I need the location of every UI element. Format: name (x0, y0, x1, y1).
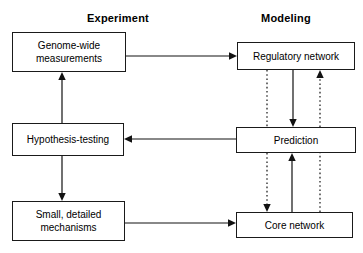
edge-core-to-prediction (288, 153, 295, 212)
node-label-regulatory-network: Regulatory network (253, 50, 339, 63)
node-label-core-network: Core network (265, 219, 324, 232)
edge-hypothesis-to-mechanisms (58, 156, 65, 201)
node-label-genome-wide-measurements: Genome-wide measurements (36, 39, 102, 65)
edge-prediction-to-hypothesis (124, 135, 236, 142)
node-genome-wide-measurements[interactable]: Genome-wide measurements (12, 32, 126, 72)
node-label-prediction: Prediction (274, 134, 318, 147)
node-small-detailed-mechanisms[interactable]: Small, detailed mechanisms (12, 201, 125, 241)
node-prediction[interactable]: Prediction (236, 127, 356, 153)
node-label-hypothesis-testing: Hypothesis-testing (27, 133, 109, 146)
edge-regulatory-to-prediction (289, 70, 296, 127)
node-regulatory-network[interactable]: Regulatory network (237, 42, 355, 70)
diagram-canvas: Experiment Modeling (0, 0, 363, 253)
edge-genome-to-regulatory (126, 52, 237, 59)
node-label-small-detailed-mechanisms: Small, detailed mechanisms (36, 208, 102, 234)
edge-hypothesis-to-genome (58, 72, 65, 123)
node-core-network[interactable]: Core network (236, 212, 353, 238)
edge-mechanisms-to-core (125, 219, 236, 226)
node-hypothesis-testing[interactable]: Hypothesis-testing (12, 123, 124, 156)
